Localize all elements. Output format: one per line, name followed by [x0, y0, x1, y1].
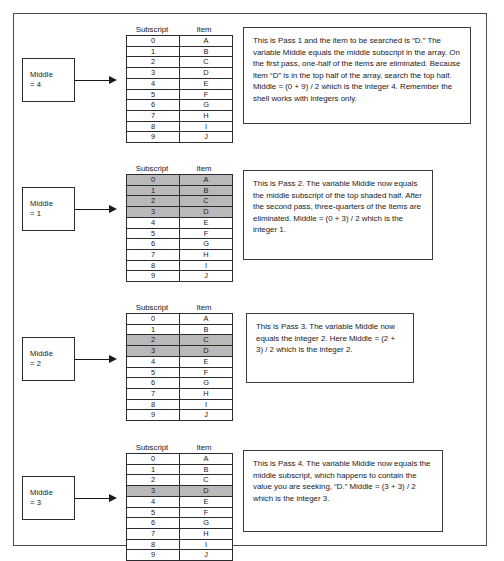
middle-box-4: Middle = 3: [22, 476, 75, 520]
array-item-cell: A: [180, 454, 233, 465]
array-row: 2C: [127, 335, 233, 346]
arrow-head-icon: [109, 355, 117, 363]
array-row: 0A: [127, 175, 233, 186]
description-box-4: This is Pass 4. The variable Middle now …: [243, 450, 443, 532]
array-subscript-cell: 5: [127, 228, 180, 239]
array-header-row: Subscript Item: [126, 161, 230, 173]
header-subscript: Subscript: [126, 25, 178, 34]
array-row: 5F: [127, 89, 233, 100]
array-item-cell: F: [180, 507, 233, 518]
array-subscript-cell: 3: [127, 486, 180, 497]
header-item: Item: [178, 25, 230, 34]
arrow-head-icon: [109, 494, 117, 502]
array-subscript-cell: 0: [127, 36, 180, 47]
array-row: 7H: [127, 528, 233, 539]
array-row: 5F: [127, 367, 233, 378]
array-header-row: Subscript Item: [126, 440, 230, 452]
array-subscript-cell: 8: [127, 399, 180, 410]
middle-label: Middle: [30, 70, 74, 80]
array-subscript-cell: 1: [127, 46, 180, 57]
array-item-cell: B: [180, 46, 233, 57]
middle-box-3: Middle = 2: [22, 337, 75, 381]
header-item: Item: [178, 303, 230, 312]
middle-value: = 4: [30, 80, 74, 90]
array-item-cell: D: [180, 346, 233, 357]
array-item-cell: E: [180, 78, 233, 89]
middle-group-3: Middle = 2: [22, 337, 142, 381]
array-row: 4E: [127, 496, 233, 507]
array-item-cell: I: [180, 121, 233, 132]
array-row: 3D: [127, 68, 233, 79]
arrow-line: [75, 359, 111, 360]
array-subscript-cell: 9: [127, 132, 180, 143]
array-item-cell: D: [180, 68, 233, 79]
array-item-cell: G: [180, 100, 233, 111]
middle-box-1: Middle = 4: [22, 58, 75, 102]
pass-block-1: Middle = 4 Subscript Item 0A1B2C3D4E5F6G…: [14, 18, 488, 158]
header-item: Item: [178, 443, 230, 452]
array-subscript-cell: 9: [127, 271, 180, 282]
figure-frame: Middle = 4 Subscript Item 0A1B2C3D4E5F6G…: [13, 13, 487, 546]
array-row: 6G: [127, 100, 233, 111]
array-row: 8I: [127, 121, 233, 132]
array-item-cell: J: [180, 410, 233, 421]
array-item-cell: I: [180, 539, 233, 550]
array-item-cell: B: [180, 324, 233, 335]
array-row: 0A: [127, 314, 233, 325]
array-row: 3D: [127, 346, 233, 357]
array-body: 0A1B2C3D4E5F6G7H8I9J: [127, 175, 233, 282]
description-box-3: This is Pass 3. The variable Middle now …: [246, 313, 414, 383]
array-subscript-cell: 3: [127, 207, 180, 218]
array-subscript-cell: 8: [127, 121, 180, 132]
middle-label: Middle: [30, 488, 74, 498]
array-item-cell: A: [180, 36, 233, 47]
header-subscript: Subscript: [126, 303, 178, 312]
middle-group-4: Middle = 3: [22, 476, 142, 520]
array-row: 7H: [127, 388, 233, 399]
arrow-line: [75, 498, 111, 499]
pass-block-4: Middle = 3 Subscript Item 0A1B2C3D4E5F6G…: [14, 431, 488, 561]
array-subscript-cell: 8: [127, 539, 180, 550]
array-subscript-cell: 6: [127, 378, 180, 389]
array-subscript-cell: 1: [127, 464, 180, 475]
arrow-line: [75, 80, 111, 81]
array-subscript-cell: 7: [127, 110, 180, 121]
description-box-2: This is Pass 2. The variable Middle now …: [243, 170, 433, 260]
array-row: 1B: [127, 46, 233, 57]
array-subscript-cell: 6: [127, 518, 180, 529]
array-subscript-cell: 9: [127, 410, 180, 421]
array-row: 3D: [127, 207, 233, 218]
array-row: 2C: [127, 196, 233, 207]
array-item-cell: J: [180, 271, 233, 282]
array-subscript-cell: 4: [127, 217, 180, 228]
array-row: 6G: [127, 378, 233, 389]
arrow-head-icon: [109, 76, 117, 84]
array-subscript-cell: 7: [127, 528, 180, 539]
array-item-cell: H: [180, 249, 233, 260]
array-item-cell: F: [180, 367, 233, 378]
middle-label: Middle: [30, 199, 74, 209]
array-subscript-cell: 1: [127, 324, 180, 335]
array-row: 3D: [127, 486, 233, 497]
array-subscript-cell: 2: [127, 335, 180, 346]
array-item-cell: C: [180, 57, 233, 68]
pass-block-2: Middle = 1 Subscript Item 0A1B2C3D4E5F6G…: [14, 157, 488, 297]
header-subscript: Subscript: [126, 443, 178, 452]
array-subscript-cell: 7: [127, 249, 180, 260]
array-header-row: Subscript Item: [126, 22, 230, 34]
array-row: 2C: [127, 57, 233, 68]
array-subscript-cell: 6: [127, 239, 180, 250]
array-item-cell: A: [180, 175, 233, 186]
array-subscript-cell: 3: [127, 346, 180, 357]
array-subscript-cell: 6: [127, 100, 180, 111]
array-table-3: Subscript Item 0A1B2C3D4E5F6G7H8I9J: [126, 300, 230, 421]
array-row: 6G: [127, 239, 233, 250]
array-row: 1B: [127, 464, 233, 475]
description-text: This is Pass 4. The variable Middle now …: [253, 458, 433, 504]
middle-value: = 2: [30, 359, 74, 369]
array-body: 0A1B2C3D4E5F6G7H8I9J: [127, 314, 233, 421]
array-item-cell: D: [180, 486, 233, 497]
array-subscript-cell: 0: [127, 175, 180, 186]
array-table-4: Subscript Item 0A1B2C3D4E5F6G7H8I9J: [126, 440, 230, 561]
pass-block-3: Middle = 2 Subscript Item 0A1B2C3D4E5F6G…: [14, 296, 488, 436]
